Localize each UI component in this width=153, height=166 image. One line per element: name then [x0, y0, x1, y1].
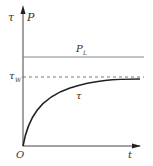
y-axis-label-p: P [26, 11, 35, 24]
tau-p-vs-time-diagram: τ P τ W P L τ O t [0, 0, 153, 166]
tau-w-label-subscript: W [15, 76, 22, 83]
y-axis-label-tau: τ [8, 11, 15, 24]
curve-label-tau: τ [76, 90, 82, 101]
y-axis-arrow-icon [21, 5, 26, 14]
x-axis-arrow-icon [132, 144, 141, 149]
x-axis-label: t [128, 149, 133, 160]
pl-label-subscript: L [82, 49, 87, 56]
origin-label: O [16, 149, 24, 160]
pl-label: P [75, 43, 83, 54]
